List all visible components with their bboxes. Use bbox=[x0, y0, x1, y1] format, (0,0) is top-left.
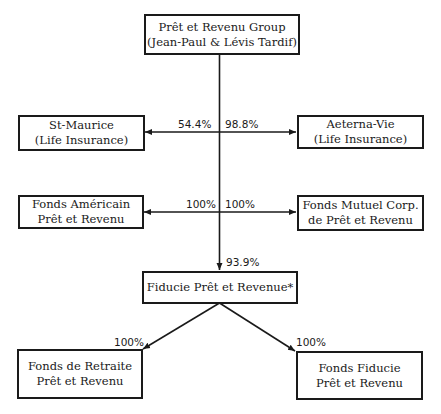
node-fonds-mutuel-line1: Fonds Mutuel Corp. bbox=[302, 198, 418, 213]
edge-label-fonds-americain: 100% bbox=[186, 198, 216, 210]
node-fonds-americain-line1: Fonds Américain bbox=[32, 197, 130, 212]
edge-label-aeterna: 98.8% bbox=[225, 118, 258, 130]
node-fonds-fiducie-line1: Fonds Fiducie bbox=[319, 361, 401, 376]
node-fiducie-line1: Fiducie Prêt et Revenue* bbox=[147, 280, 294, 295]
node-fonds-retraite-line1: Fonds de Retraite bbox=[28, 359, 132, 374]
edge-label-fonds-retraite: 100% bbox=[114, 336, 144, 348]
node-fiducie: Fiducie Prêt et Revenue* bbox=[142, 271, 298, 304]
node-st-maurice: St-Maurice (Life Insurance) bbox=[18, 115, 145, 151]
node-fonds-mutuel: Fonds Mutuel Corp. de Prêt et Revenu bbox=[297, 195, 424, 231]
node-parent-line1: Prêt et Revenu Group bbox=[158, 20, 285, 35]
node-fonds-americain-line2: Prêt et Revenu bbox=[38, 212, 125, 227]
node-st-maurice-line1: St-Maurice bbox=[49, 118, 114, 133]
node-fonds-mutuel-line2: de Prêt et Revenu bbox=[308, 213, 413, 228]
edge-label-fiducie: 93.9% bbox=[226, 256, 259, 268]
node-aeterna-line2: (Life Insurance) bbox=[314, 132, 407, 147]
node-fonds-retraite-line2: Prêt et Revenu bbox=[37, 374, 124, 389]
edge-label-fonds-fiducie: 100% bbox=[296, 336, 326, 348]
node-aeterna-line1: Aeterna-Vie bbox=[327, 117, 395, 132]
node-fonds-retraite: Fonds de Retraite Prêt et Revenu bbox=[17, 349, 143, 399]
node-fonds-americain: Fonds Américain Prêt et Revenu bbox=[18, 195, 144, 229]
node-aeterna: Aeterna-Vie (Life Insurance) bbox=[297, 115, 424, 149]
node-parent-line2: (Jean-Paul & Lévis Tardif) bbox=[147, 35, 297, 50]
node-parent: Prêt et Revenu Group (Jean-Paul & Lévis … bbox=[144, 14, 300, 55]
edge-label-fonds-mutuel: 100% bbox=[225, 198, 255, 210]
node-st-maurice-line2: (Life Insurance) bbox=[35, 133, 128, 148]
node-fonds-fiducie: Fonds Fiducie Prêt et Revenu bbox=[296, 351, 423, 400]
node-fonds-fiducie-line2: Prêt et Revenu bbox=[316, 376, 403, 391]
edge-label-st-maurice: 54.4% bbox=[178, 118, 211, 130]
